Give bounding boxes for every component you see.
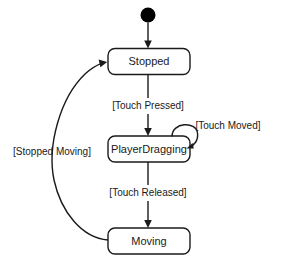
edge-label-stopped-moving: [Stopped Moving]: [13, 146, 91, 157]
state-diagram: Stopped [Touch Pressed] PlayerDragging […: [0, 0, 282, 263]
state-label-moving: Moving: [131, 235, 166, 247]
arrowhead-moving-to-stopped: [99, 59, 108, 67]
state-label-playerdragging: PlayerDragging: [111, 143, 187, 155]
edge-label-touch-moved: [Touch Moved]: [195, 120, 260, 131]
edge-label-touch-released: [Touch Released]: [109, 187, 186, 198]
initial-state-dot: [141, 8, 156, 23]
state-label-stopped: Stopped: [129, 55, 170, 67]
edge-label-touch-pressed: [Touch Pressed]: [112, 100, 184, 111]
arrowhead-stopped-to-playerdragging: [144, 128, 152, 136]
state-diagram-canvas: Stopped [Touch Pressed] PlayerDragging […: [0, 0, 282, 263]
arrowhead-playerdragging-to-moving: [144, 220, 152, 228]
arrowhead-initial-to-stopped: [144, 41, 152, 49]
